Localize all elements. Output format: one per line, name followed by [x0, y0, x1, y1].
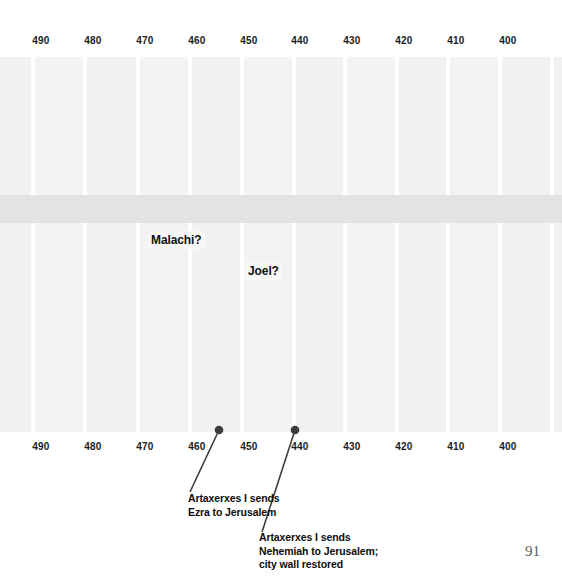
era-band: [0, 195, 562, 223]
gridline: [31, 57, 35, 432]
annotation-nehemiah: Artaxerxes I sends Nehemiah to Jerusalem…: [259, 531, 378, 572]
axis-bottom-tick-410: 410: [436, 440, 476, 454]
annotation-ezra: Artaxerxes I sends Ezra to Jerusalem: [188, 492, 280, 519]
gridline: [240, 57, 244, 432]
column-tone: [345, 57, 397, 432]
axis-bottom-tick-470: 470: [125, 440, 165, 454]
axis-top-tick-470: 470: [125, 34, 165, 48]
gridline: [395, 57, 399, 432]
column-tone: [33, 57, 85, 432]
timeline-chart: 490 480 470 460 450 440 430 420 410 400 …: [0, 0, 562, 580]
axis-top-tick-440: 440: [280, 34, 320, 48]
axis-top-tick-420: 420: [384, 34, 424, 48]
plot-label-joel: Joel?: [245, 262, 282, 280]
axis-bottom-tick-480: 480: [73, 440, 113, 454]
column-tone: [448, 57, 500, 432]
axis-top: 490 480 470 460 450 440 430 420 410 400: [0, 34, 562, 50]
axis-bottom: 490 480 470 460 450 440 430 420 410 400: [0, 440, 562, 456]
axis-bottom-tick-430: 430: [332, 440, 372, 454]
event-marker-ezra[interactable]: [215, 426, 224, 435]
axis-top-tick-490: 490: [21, 34, 61, 48]
axis-top-tick-460: 460: [177, 34, 217, 48]
gridline: [498, 57, 502, 432]
column-tone: [242, 57, 294, 432]
gridline: [550, 57, 554, 432]
gridline: [292, 57, 296, 432]
gridline: [343, 57, 347, 432]
axis-top-tick-450: 450: [229, 34, 269, 48]
axis-bottom-tick-420: 420: [384, 440, 424, 454]
axis-top-tick-430: 430: [332, 34, 372, 48]
plot-area: [0, 57, 562, 432]
axis-top-tick-480: 480: [73, 34, 113, 48]
axis-top-tick-410: 410: [436, 34, 476, 48]
gridline: [136, 57, 140, 432]
page-number: 91: [525, 543, 540, 560]
axis-bottom-tick-440: 440: [280, 440, 320, 454]
axis-bottom-tick-450: 450: [229, 440, 269, 454]
gridline: [83, 57, 87, 432]
axis-bottom-tick-400: 400: [488, 440, 528, 454]
plot-label-malachi: Malachi?: [148, 231, 205, 249]
axis-top-tick-400: 400: [488, 34, 528, 48]
gridline: [446, 57, 450, 432]
axis-bottom-tick-490: 490: [21, 440, 61, 454]
event-marker-nehemiah[interactable]: [291, 426, 300, 435]
